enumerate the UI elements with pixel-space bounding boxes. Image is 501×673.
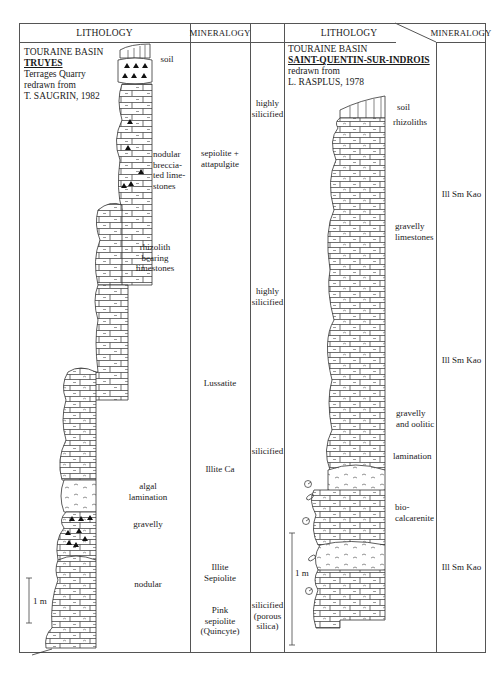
- unit-label: lamination: [393, 451, 435, 462]
- silicification-label: highly silicified: [251, 286, 284, 307]
- scale-bar-right: [289, 533, 295, 645]
- unit-label: algal lamination: [118, 481, 178, 502]
- mineralogy-label: Lussatite: [192, 378, 248, 389]
- silicification-label: silicified: [251, 446, 284, 457]
- mineralogy-label: Pink sepiolite (Quincyte): [192, 605, 248, 637]
- saint-quentin-column: [303, 96, 386, 628]
- unit-label: bio- calcarenite: [395, 502, 437, 523]
- title-line3: redrawn from: [288, 66, 433, 77]
- mineralogy-label: Illite Ca: [192, 464, 248, 475]
- unit-label: nodular: [118, 579, 178, 590]
- silicification-label: highly silicified: [251, 98, 284, 119]
- mineralogy-label: Illite Sepiolite: [192, 562, 248, 583]
- source-citation: L. RASPLUS, 1978: [288, 77, 433, 88]
- source-citation: T. SAUGRIN, 1982: [24, 91, 134, 102]
- header-mineralogy-left: MINERALOGY: [190, 24, 250, 42]
- site-name: TRUYES: [24, 58, 134, 69]
- mineralogy-label: Ill Sm Kao: [437, 189, 486, 200]
- scale-label: 1 m: [295, 568, 325, 579]
- unit-label: soil: [152, 54, 182, 65]
- basin-name: TOURAINE BASIN: [24, 47, 134, 58]
- unit-label: gravelly: [118, 519, 178, 530]
- silicification-label: silicified (porous silica): [251, 600, 284, 632]
- unit-label: soil: [397, 102, 433, 113]
- mineralogy-label: Ill Sm Kao: [437, 355, 486, 366]
- header-lithology-right: LITHOLOGY: [284, 24, 414, 42]
- truyes-column: [32, 44, 152, 655]
- scale-bar-left: [26, 578, 32, 623]
- unit-label: rhizoliths: [393, 117, 435, 128]
- unit-label: gravelly limestones: [395, 221, 437, 242]
- unit-label: rhizolith bearing limestones: [130, 242, 180, 274]
- mineralogy-label: sepiolite + attapulgite: [192, 148, 248, 169]
- right-section-title: TOURAINE BASIN SAINT-QUENTIN-SUR-INDROIS…: [288, 44, 433, 88]
- mineralogy-label: Ill Sm Kao: [437, 562, 486, 573]
- unit-label: gravelly and oolitic: [396, 408, 438, 429]
- title-line4: redrawn from: [24, 80, 134, 91]
- header-mineralogy-right: MINERALOGY: [425, 24, 497, 42]
- site-name: SAINT-QUENTIN-SUR-INDROIS: [288, 55, 433, 66]
- title-line3: Terrages Quarry: [24, 69, 134, 80]
- left-section-title: TOURAINE BASIN TRUYES Terrages Quarry re…: [24, 47, 134, 102]
- unit-label: nodular breccia- ted lime- stones: [153, 149, 193, 191]
- basin-name: TOURAINE BASIN: [288, 44, 433, 55]
- header-lithology-left: LITHOLOGY: [19, 24, 190, 42]
- scale-label: 1 m: [33, 596, 63, 607]
